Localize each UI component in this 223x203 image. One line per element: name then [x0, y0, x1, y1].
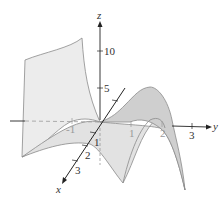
y-tick-label-neg1: -1	[66, 124, 75, 135]
surface-plot	[0, 0, 223, 203]
z-axis-label: z	[97, 10, 101, 21]
y-tick-label-1: 1	[129, 128, 135, 139]
x-tick-label-1: 1	[94, 137, 100, 148]
z-tick-label-5: 5	[104, 83, 110, 94]
x-tick-label-3: 3	[75, 165, 81, 176]
y-axis-label: y	[213, 121, 218, 132]
x-axis-arrow-icon	[62, 177, 67, 184]
y-tick-label-3: 3	[189, 130, 195, 141]
y-axis-arrow-icon	[206, 125, 212, 130]
z-axis-arrow-icon	[98, 21, 103, 27]
x-tick-label-2: 2	[85, 150, 91, 161]
y-axis	[172, 126, 208, 127]
z-tick-label-10: 10	[104, 46, 115, 57]
x-axis-label: x	[56, 184, 61, 195]
y-tick-label-2: 2	[160, 128, 166, 139]
